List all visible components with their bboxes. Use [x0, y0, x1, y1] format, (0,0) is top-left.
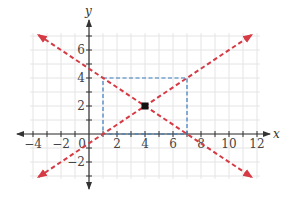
y-tick-label: 4 — [77, 71, 85, 85]
y-tick-label: 2 — [77, 99, 85, 113]
x-axis-label: x — [273, 127, 280, 141]
point-marker — [142, 103, 149, 110]
y-tick-label: 6 — [77, 43, 85, 57]
y-axis-label: y — [84, 4, 92, 18]
x-tick-label: 2 — [113, 137, 121, 151]
x-tick-label: 4 — [141, 137, 149, 151]
x-tick-label: −2 — [52, 137, 70, 151]
y-tick-label: −2 — [67, 155, 85, 169]
x-tick-label: 12 — [249, 137, 264, 151]
x-tick-label: 6 — [169, 137, 177, 151]
intersection-point — [142, 103, 149, 110]
coordinate-plane-chart: −4−2024681012−2246 x y — [0, 0, 293, 198]
x-tick-label: 10 — [221, 137, 236, 151]
x-tick-label: −4 — [24, 137, 42, 151]
